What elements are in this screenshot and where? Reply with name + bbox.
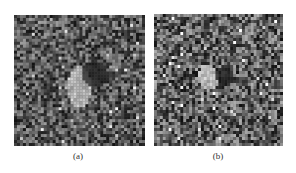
caption-a: (a) [63,151,93,161]
caption-b: (b) [203,151,233,161]
noise-image-b [154,14,283,146]
noise-image-a [14,15,145,146]
sar-image-panel-a [14,15,145,146]
sar-image-panel-b [154,14,283,146]
